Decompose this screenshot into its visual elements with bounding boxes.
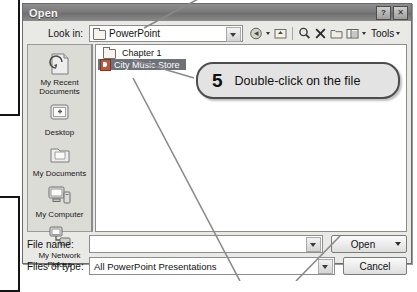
cancel-button[interactable]: Cancel xyxy=(343,257,407,275)
place-label: My Computer xyxy=(28,210,91,219)
file-name-label: File name: xyxy=(27,239,89,250)
look-in-label: Look in: xyxy=(27,28,89,39)
place-item-my-computer[interactable]: My Computer xyxy=(28,183,91,219)
folder-icon xyxy=(103,48,115,57)
callout-text: Double-click on the file xyxy=(235,74,361,88)
close-button[interactable]: ✕ xyxy=(393,6,408,20)
tools-dropdown-icon[interactable] xyxy=(395,26,402,40)
recent-documents-icon xyxy=(28,51,91,77)
list-item[interactable]: Chapter 1 xyxy=(98,47,406,58)
up-one-level-icon[interactable] xyxy=(273,26,288,41)
chevron-down-icon[interactable] xyxy=(318,259,333,274)
files-of-type-value: All PowerPoint Presentations xyxy=(90,261,217,272)
dialog-title: Open xyxy=(29,7,58,19)
views-icon[interactable] xyxy=(345,26,360,41)
look-in-value: PowerPoint xyxy=(109,28,160,39)
delete-icon[interactable] xyxy=(313,26,328,41)
place-item-recent-documents[interactable]: My Recent Documents xyxy=(28,51,91,96)
look-in-combobox[interactable]: PowerPoint xyxy=(89,25,243,42)
file-name-input[interactable] xyxy=(89,235,323,253)
callout-bubble: 5 Double-click on the file xyxy=(196,62,400,99)
my-computer-icon xyxy=(28,183,91,209)
places-bar: My Recent Documents Desktop xyxy=(27,44,93,232)
open-dialog: Open ? ✕ Look in: PowerPoint xyxy=(22,3,412,264)
files-of-type-row: Files of type: All PowerPoint Presentati… xyxy=(27,257,407,275)
toolbar-separator xyxy=(292,27,293,40)
files-of-type-combobox[interactable]: All PowerPoint Presentations xyxy=(89,257,335,275)
tools-menu-button[interactable]: Tools xyxy=(371,28,394,39)
back-dropdown-icon[interactable] xyxy=(265,26,272,40)
file-name-label: City Music Store xyxy=(114,60,180,70)
chevron-down-icon[interactable] xyxy=(306,237,321,252)
desktop-icon xyxy=(28,101,91,127)
chevron-down-icon[interactable] xyxy=(226,27,241,42)
place-item-my-documents[interactable]: My Documents xyxy=(28,142,91,178)
look-in-row: Look in: PowerPoint xyxy=(23,21,411,43)
callout-step-number: 5 xyxy=(212,70,223,92)
dialog-titlebar: Open ? ✕ xyxy=(23,4,411,21)
place-label: My Documents xyxy=(28,169,91,178)
list-item[interactable]: City Music Store xyxy=(98,59,186,70)
help-button[interactable]: ? xyxy=(376,6,391,20)
back-arrow-icon[interactable] xyxy=(249,26,264,41)
place-label: My Recent Documents xyxy=(28,78,91,96)
new-folder-icon[interactable] xyxy=(329,26,344,41)
page-edge-artifact-bottom xyxy=(0,196,20,292)
folder-icon xyxy=(93,29,105,38)
titlebar-buttons: ? ✕ xyxy=(376,6,408,20)
files-of-type-label: Files of type: xyxy=(27,261,89,272)
place-label: Desktop xyxy=(28,128,91,137)
my-documents-icon xyxy=(28,142,91,168)
presentation-icon xyxy=(100,59,111,71)
dialog-toolbar: Tools xyxy=(249,26,402,41)
open-button[interactable]: Open xyxy=(331,235,407,253)
file-name-label: Chapter 1 xyxy=(122,48,162,58)
search-icon[interactable] xyxy=(297,26,312,41)
views-dropdown-icon[interactable] xyxy=(361,26,368,40)
page-edge-artifact-top xyxy=(0,0,20,116)
place-item-desktop[interactable]: Desktop xyxy=(28,101,91,137)
file-name-row: File name: Open xyxy=(27,235,407,253)
